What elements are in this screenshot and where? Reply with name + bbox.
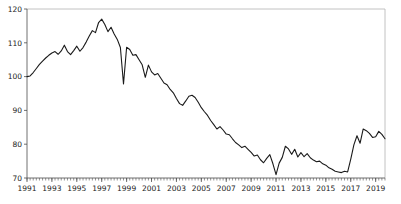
- x-tick-label: 2017: [341, 184, 360, 193]
- x-tick-label: 1997: [92, 184, 111, 193]
- x-tick-label: 1995: [67, 184, 86, 193]
- x-tick-label: 2007: [217, 184, 236, 193]
- x-tick-label: 2009: [242, 184, 261, 193]
- x-tick-label: 2013: [291, 184, 310, 193]
- plot-frame: [27, 9, 385, 178]
- x-axis-ticks: 1991199319951997199920012003200520072009…: [17, 178, 385, 193]
- series-layer: [27, 19, 385, 174]
- x-tick-label: 1993: [42, 184, 61, 193]
- y-tick-label: 80: [12, 140, 22, 149]
- y-axis-ticks: 708090100110120: [8, 5, 27, 183]
- x-tick-label: 2003: [167, 184, 186, 193]
- y-tick-label: 110: [8, 39, 23, 48]
- series-line-0: [27, 19, 385, 174]
- y-tick-label: 100: [8, 72, 23, 81]
- x-tick-label: 1991: [17, 184, 36, 193]
- x-tick-label: 2001: [142, 184, 161, 193]
- x-tick-label: 1999: [117, 184, 136, 193]
- plot-border: [27, 9, 385, 178]
- axis-lines: [27, 9, 385, 178]
- y-tick-label: 70: [12, 174, 22, 183]
- x-tick-label: 2015: [316, 184, 335, 193]
- x-tick-label: 2011: [266, 184, 285, 193]
- line-chart: 708090100110120 199119931995199719992001…: [0, 0, 401, 204]
- y-tick-label: 90: [12, 106, 22, 115]
- y-tick-label: 120: [8, 5, 23, 14]
- x-tick-label: 2005: [192, 184, 211, 193]
- x-tick-label: 2019: [366, 184, 385, 193]
- chart-canvas: 708090100110120 199119931995199719992001…: [0, 0, 401, 204]
